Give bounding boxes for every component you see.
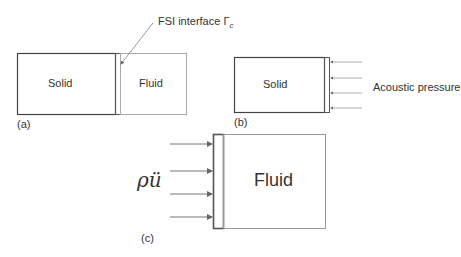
- interface-strip-a: [116, 54, 121, 115]
- interface-label: FSI interface Γc: [158, 15, 233, 30]
- panel-c-shapes: [170, 135, 326, 229]
- interface-pointer: [121, 23, 153, 64]
- caption-b: (b): [234, 116, 247, 128]
- caption-a: (a): [17, 118, 30, 130]
- rho-u-label: ρü: [137, 168, 162, 192]
- solid-label-b: Solid: [263, 78, 287, 90]
- caption-c: (c): [141, 232, 154, 244]
- interface-subscript: c: [229, 21, 233, 30]
- panel-b-shapes: [235, 58, 363, 113]
- solid-label-a: Solid: [48, 77, 72, 89]
- fluid-label-c: Fluid: [254, 170, 293, 191]
- fluid-label-a: Fluid: [139, 77, 163, 89]
- interface-strip-b: [325, 58, 330, 113]
- interface-strip-c: [214, 135, 224, 229]
- interface-label-text: FSI interface Γ: [158, 15, 229, 27]
- acoustic-pressure-label: Acoustic pressure: [373, 81, 460, 93]
- panel-a-shapes: [18, 23, 187, 115]
- diagram-lines: [0, 0, 461, 257]
